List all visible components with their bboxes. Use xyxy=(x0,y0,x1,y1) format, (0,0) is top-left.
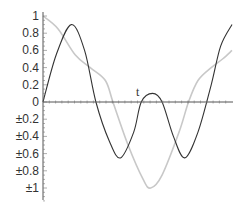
y-minor-ticks xyxy=(43,16,47,201)
y-tick-label: ±0.6 xyxy=(16,147,40,161)
y-tick-label: 1 xyxy=(32,9,39,23)
y-tick-label: ±0.8 xyxy=(16,164,40,178)
axes: 10.80.60.40.20±0.2±0.4±0.6±0.8±1 t xyxy=(16,9,233,201)
y-tick-label: 0 xyxy=(32,95,39,109)
y-tick-labels: 10.80.60.40.20±0.2±0.4±0.6±0.8±1 xyxy=(16,9,40,195)
line-chart: 10.80.60.40.20±0.2±0.4±0.6±0.8±1 t xyxy=(0,0,248,214)
y-tick-label: ±0.4 xyxy=(16,129,40,143)
x-axis-label: t xyxy=(136,85,140,99)
y-tick-label: ±1 xyxy=(26,181,40,195)
y-tick-label: 0.8 xyxy=(22,26,39,40)
y-tick-label: 0.2 xyxy=(22,78,39,92)
y-tick-label: 0.6 xyxy=(22,43,39,57)
y-tick-label: 0.4 xyxy=(22,61,39,75)
y-tick-label: ±0.2 xyxy=(16,112,40,126)
